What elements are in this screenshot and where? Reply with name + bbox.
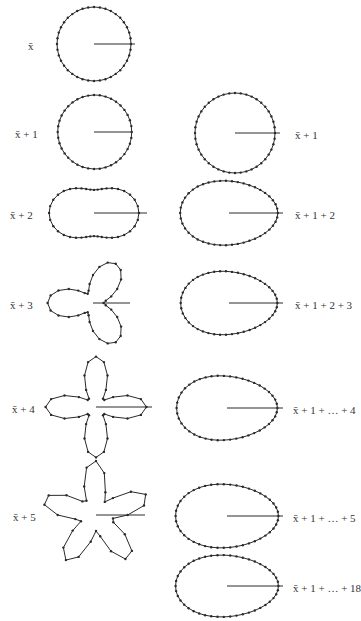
shape-left-5 [43, 460, 147, 562]
shape-left-4 [44, 355, 152, 458]
shape-left-2 [48, 187, 147, 239]
label-left-2: x̄ + 2 [10, 209, 33, 221]
shape-left-1 [57, 94, 133, 170]
shape-right-1 [179, 180, 283, 247]
shape-right-5 [174, 554, 283, 618]
label-right-3: x̄ + 1 + … + 4 [293, 404, 356, 416]
shape-right-2 [180, 270, 284, 336]
label-right-2: x̄ + 1 + 2 + 3 [295, 299, 352, 311]
label-right-5: x̄ + 1 + … + 18 [293, 582, 361, 594]
label-left-5: x̄ + 5 [13, 511, 36, 523]
shape-right-4 [174, 483, 283, 549]
label-left-0: x̄ [28, 40, 34, 52]
shape-left-3 [46, 261, 130, 344]
label-right-4: x̄ + 1 + … + 5 [293, 512, 356, 524]
label-right-0: x̄ + 1 [295, 129, 318, 141]
label-right-1: x̄ + 1 + 2 [295, 209, 335, 221]
label-left-4: x̄ + 4 [12, 403, 35, 415]
shape-left-0 [56, 6, 135, 82]
label-left-1: x̄ + 1 [15, 128, 38, 140]
label-left-3: x̄ + 3 [10, 299, 33, 311]
shape-right-3 [175, 375, 283, 442]
shape-right-0 [194, 92, 280, 174]
